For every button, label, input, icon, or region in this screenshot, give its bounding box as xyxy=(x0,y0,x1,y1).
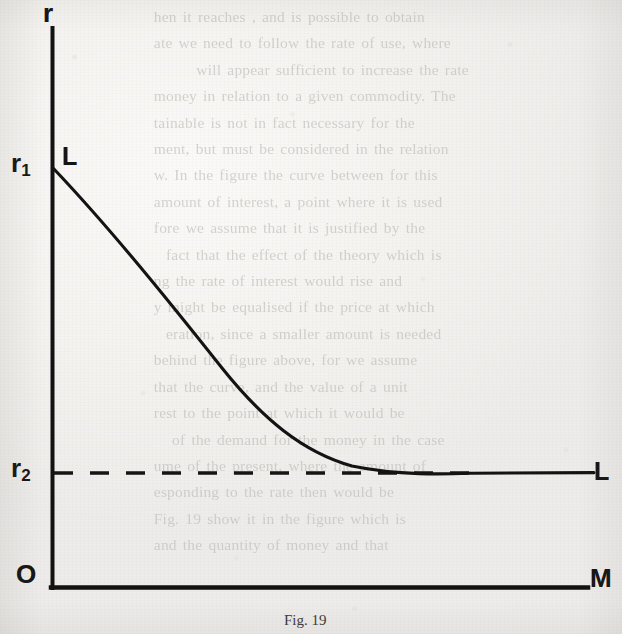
figure-drawing: r O M L L r1 r2 Fig. 19 xyxy=(0,0,622,634)
curve-end-label-L: L xyxy=(594,459,609,484)
x-axis-label: M xyxy=(590,565,612,591)
origin-label: O xyxy=(16,561,36,587)
figure-svg xyxy=(0,0,622,634)
figure-page: hen it reaches , and is possible to obta… xyxy=(0,0,622,634)
y-axis-label: r xyxy=(43,0,53,26)
curve-start-label-L: L xyxy=(62,144,77,169)
r1-subscript: 1 xyxy=(21,161,30,180)
r1-value-label: r1 xyxy=(11,150,31,179)
decay-curve-LL xyxy=(53,168,594,474)
r2-base-letter: r xyxy=(11,453,21,483)
figure-caption: Fig. 19 xyxy=(284,612,327,629)
r1-base-letter: r xyxy=(11,148,21,178)
r2-value-label: r2 xyxy=(11,455,31,484)
r2-subscript: 2 xyxy=(21,466,30,485)
